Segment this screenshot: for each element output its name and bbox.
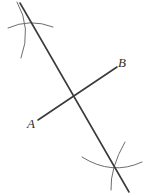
geometry-figure: A B — [0, 0, 145, 194]
construction-canvas — [0, 0, 145, 194]
point-label-a: A — [27, 117, 35, 130]
point-label-b: B — [118, 56, 126, 69]
